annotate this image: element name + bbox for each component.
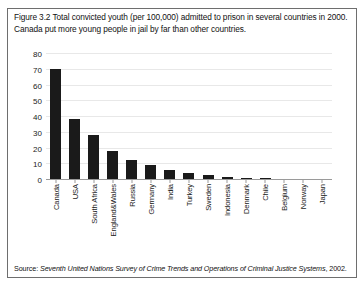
x-axis-tick-label: India	[165, 184, 174, 200]
x-axis-tick-label: Russia	[127, 184, 136, 207]
x-label-slot: Denmark	[237, 184, 256, 246]
x-axis-tickmark	[227, 180, 228, 183]
x-label-slot: Canada	[46, 184, 65, 246]
x-axis-tick-label: Germany	[146, 184, 155, 215]
x-label-slot: Norway	[294, 184, 313, 246]
x-axis-tick-label: Japan	[318, 184, 327, 204]
x-axis-tickmark	[131, 180, 132, 183]
bar[interactable]	[126, 160, 137, 180]
x-axis-tick-label: Denmark	[242, 184, 251, 214]
source-note: Source: Seventh United Nations Survey of…	[14, 264, 352, 273]
bar-slot	[218, 54, 237, 180]
bar[interactable]	[145, 165, 156, 180]
y-axis-tick-label: 70	[33, 65, 42, 74]
figure-frame: Figure 3.2 Total convicted youth (per 10…	[7, 8, 357, 278]
x-axis-tick-label: Chile	[261, 184, 270, 201]
x-axis-tick-label: Belgium	[280, 184, 289, 211]
plot-area-wrapper: 01020304050607080	[46, 54, 332, 180]
x-axis-tick-labels: CanadaUSASouth AfricaEngland&WalesRussia…	[46, 184, 332, 246]
bar-slot	[122, 54, 141, 180]
bar-slot	[294, 54, 313, 180]
x-label-slot: Chile	[256, 184, 275, 246]
bar[interactable]	[107, 151, 118, 180]
x-label-slot: England&Wales	[103, 184, 122, 246]
bar-slot	[275, 54, 294, 180]
x-label-slot: South Africa	[84, 184, 103, 246]
x-label-slot: USA	[65, 184, 84, 246]
x-axis-line	[46, 179, 332, 180]
bar-chart: 01020304050607080 CanadaUSASouth AfricaE…	[8, 49, 356, 254]
source-year: , 2002.	[325, 264, 346, 273]
bar-slot	[199, 54, 218, 180]
bar-slot	[84, 54, 103, 180]
x-label-slot: Japan	[313, 184, 332, 246]
y-axis-tick-label: 40	[33, 113, 42, 122]
bars-layer	[46, 54, 332, 180]
x-axis-tickmark	[322, 180, 323, 183]
x-axis-tickmark	[188, 180, 189, 183]
x-label-slot: Turkey	[179, 184, 198, 246]
x-label-slot: Russia	[122, 184, 141, 246]
bar-slot	[46, 54, 65, 180]
bar-slot	[313, 54, 332, 180]
plot-area	[46, 54, 332, 180]
x-axis-tick-label: Indonesia	[223, 184, 232, 216]
x-axis-tick-label: Norway	[299, 184, 308, 209]
x-axis-tick-label: USA	[70, 184, 79, 199]
bar[interactable]	[69, 119, 80, 180]
bar-slot	[237, 54, 256, 180]
x-axis-tickmark	[208, 180, 209, 183]
source-title: Seventh United Nations Survey of Crime T…	[40, 264, 325, 273]
x-axis-tick-label: Sweden	[204, 184, 213, 211]
x-axis-tickmark	[303, 180, 304, 183]
y-axis-tick-label: 20	[33, 144, 42, 153]
y-axis-tick-label: 80	[33, 50, 42, 59]
y-axis-tick-label: 60	[33, 81, 42, 90]
bar-slot	[103, 54, 122, 180]
y-axis-tick-label: 0	[38, 176, 42, 185]
x-axis-tickmark	[112, 180, 113, 183]
x-axis-tick-label: England&Wales	[108, 184, 117, 236]
bar-slot	[179, 54, 198, 180]
y-axis-tick-label: 10	[33, 160, 42, 169]
x-label-slot: Belgium	[275, 184, 294, 246]
bar[interactable]	[50, 69, 61, 180]
source-label: Source:	[14, 264, 40, 273]
x-axis-tickmark	[74, 180, 75, 183]
bar-slot	[141, 54, 160, 180]
x-axis-tickmark	[265, 180, 266, 183]
y-axis-tick-label: 30	[33, 128, 42, 137]
x-axis-tick-label: South Africa	[89, 184, 98, 224]
bar-slot	[256, 54, 275, 180]
figure-caption: Figure 3.2 Total convicted youth (per 10…	[14, 12, 352, 35]
x-axis-tick-label: Canada	[51, 184, 60, 210]
x-axis-tickmark	[93, 180, 94, 183]
x-axis-tickmark	[284, 180, 285, 183]
bar[interactable]	[88, 135, 99, 180]
x-label-slot: India	[160, 184, 179, 246]
x-axis-tickmark	[55, 180, 56, 183]
x-label-slot: Indonesia	[218, 184, 237, 246]
y-axis-tick-label: 50	[33, 97, 42, 106]
x-label-slot: Sweden	[199, 184, 218, 246]
x-axis-tickmark	[246, 180, 247, 183]
x-axis-tick-label: Turkey	[184, 184, 193, 206]
bar-slot	[160, 54, 179, 180]
bar-slot	[65, 54, 84, 180]
x-label-slot: Germany	[141, 184, 160, 246]
x-axis-tickmark	[169, 180, 170, 183]
